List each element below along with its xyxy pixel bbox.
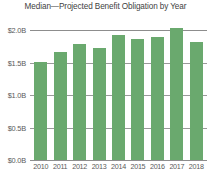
x-axis-tick-label: 2012 <box>70 162 89 171</box>
x-axis-tick-label: 2017 <box>167 162 186 171</box>
bar-slot <box>109 24 128 160</box>
x-axis-tick-label: 2015 <box>128 162 147 171</box>
bar-slot <box>50 24 69 160</box>
y-axis-tick-label: $1.5B <box>8 58 26 67</box>
x-axis-tick-label: 2013 <box>89 162 108 171</box>
bar[interactable] <box>131 39 144 160</box>
y-axis-tick-label: $0.0B <box>8 156 26 165</box>
bar-slot <box>167 24 186 160</box>
y-axis-tick-label: $1.0B <box>8 91 26 100</box>
bar-slot <box>31 24 50 160</box>
bar-slot <box>128 24 147 160</box>
bar[interactable] <box>151 37 164 161</box>
bar-slot <box>187 24 206 160</box>
x-axis-tick-label: 2014 <box>109 162 128 171</box>
bar[interactable] <box>112 35 125 160</box>
bar-slot <box>148 24 167 160</box>
bar[interactable] <box>190 42 203 160</box>
y-axis-tick-label: $2.0B <box>8 26 26 35</box>
bar[interactable] <box>170 28 183 160</box>
x-axis-tick-label: 2011 <box>50 162 69 171</box>
bar-chart: Median—Projected Benefit Obligation by Y… <box>0 0 211 182</box>
x-axis-tick-label: 2010 <box>31 162 50 171</box>
bar[interactable] <box>34 62 47 160</box>
bar[interactable] <box>73 44 86 160</box>
bar[interactable] <box>93 48 106 160</box>
bar-slot <box>70 24 89 160</box>
x-axis-labels: 201020112012201320142015201620172018 <box>30 162 207 171</box>
chart-title: Median—Projected Benefit Obligation by Y… <box>0 2 211 11</box>
bar-slot <box>89 24 108 160</box>
y-axis-labels: $0.0B$0.5B$1.0B$1.5B$2.0B <box>0 24 28 160</box>
x-axis-tick-label: 2018 <box>187 162 206 171</box>
bar-series <box>30 24 207 160</box>
gridline <box>30 160 207 161</box>
bar[interactable] <box>54 52 67 160</box>
x-axis-tick-label: 2016 <box>148 162 167 171</box>
plot-area <box>30 24 207 160</box>
y-axis-tick-label: $0.5B <box>8 123 26 132</box>
